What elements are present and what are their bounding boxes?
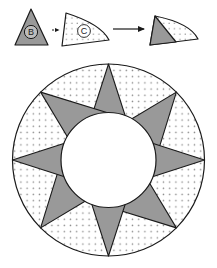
figure-svg: B C	[0, 0, 217, 268]
wedge-piece-c: C	[62, 13, 109, 46]
triangle-piece-b: B	[15, 9, 48, 45]
label-c: C	[81, 26, 88, 36]
inner-circle	[61, 113, 156, 208]
label-b: B	[28, 27, 34, 37]
figure-root: B C	[0, 0, 217, 268]
combined-piece	[150, 16, 198, 45]
annulus-diagram	[13, 64, 205, 256]
